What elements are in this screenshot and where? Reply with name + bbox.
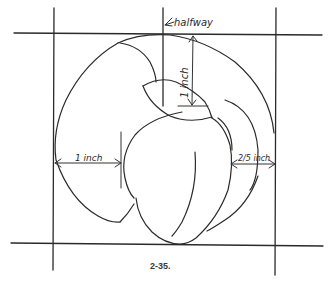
figure-caption: 2-35. [150, 261, 171, 271]
label-halfway: halfway [174, 17, 214, 28]
guide-square [11, 8, 323, 275]
label-left-1-inch: 1 inch [75, 153, 103, 163]
dimension-top-1-inch: 1 inch [178, 36, 208, 106]
outer-outline [55, 35, 274, 231]
bottom-guide-line [11, 243, 323, 246]
label-top-1-inch: 1 inch [179, 68, 190, 99]
label-right-2-5-inch: 2/5 inch [238, 154, 270, 163]
apple-body [124, 112, 232, 244]
left-guide-line [53, 8, 54, 270]
leaf [120, 43, 212, 120]
dimension-right-2-5-inch: 2/5 inch [231, 154, 275, 168]
apple-drawing-diagram: 1 inch halfway 1 inch 2/5 inch 2-35. [0, 0, 334, 290]
right-guide-line [275, 8, 276, 275]
dimension-halfway: halfway [165, 17, 214, 28]
